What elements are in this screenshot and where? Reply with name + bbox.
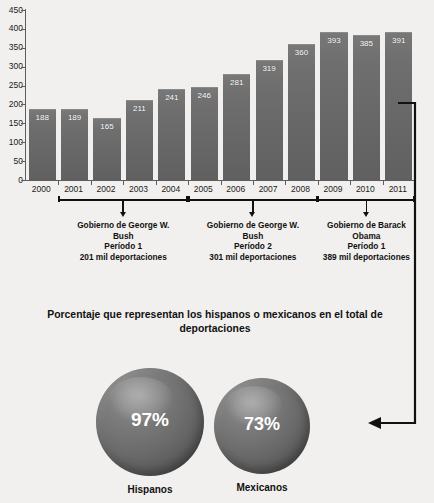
y-tick-label: 150 (0, 119, 23, 128)
x-tick-label: 2002 (90, 184, 122, 195)
y-tick-label: 450 (0, 6, 23, 15)
x-tick-label: 2000 (25, 184, 57, 195)
x-tick-label: 2008 (284, 184, 316, 195)
period-caption: Gobierno de George W.BushPeríodo 1201 mi… (57, 220, 189, 262)
y-tick-mark (21, 48, 25, 49)
bar-value-label: 391 (385, 36, 412, 45)
bar: 189 (61, 109, 88, 180)
y-tick-label: 400 (0, 24, 23, 33)
sphere-group: 97%Hispanos73%Mexicanos (0, 360, 434, 503)
period-arrow-head-icon (120, 212, 126, 217)
period-bracket-tick (318, 196, 320, 202)
bar-value-label: 211 (126, 104, 153, 113)
bar-value-label: 165 (93, 122, 120, 131)
period-caption-line: Obama (300, 231, 432, 242)
bar-value-label: 393 (320, 36, 347, 45)
sphere-percentage-value: 97% (96, 410, 204, 431)
sphere-label: Mexicanos (202, 482, 322, 494)
bar: 165 (93, 118, 120, 180)
y-tick-label: 100 (0, 138, 23, 147)
x-tick-label: 2006 (220, 184, 252, 195)
bar: 360 (288, 44, 315, 180)
bar: 281 (223, 74, 250, 180)
bar: 188 (29, 109, 56, 180)
plot-area: 188189165211241246281319360393385391 (26, 10, 415, 180)
y-tick-mark (21, 123, 25, 124)
period-caption-line: Período 1 (300, 241, 432, 252)
period-caption-line: Período 1 (57, 241, 189, 252)
bar: 241 (158, 89, 185, 180)
period-bracket-tick (58, 196, 60, 202)
y-tick-mark (21, 86, 25, 87)
y-tick-mark (21, 142, 25, 143)
bar-value-label: 241 (158, 93, 185, 102)
period-caption-line: 201 mil deportaciones (57, 252, 189, 263)
y-axis-labels: 450400350300250200150100500 (0, 0, 23, 200)
period-caption: Gobierno de BarackObamaPeríodo 1389 mil … (300, 220, 432, 262)
y-tick-mark (21, 29, 25, 30)
infographic-root: 450400350300250200150100500 188189165211… (0, 0, 434, 503)
period-arrow-head-icon (249, 212, 255, 217)
y-tick-mark (21, 104, 25, 105)
x-tick-label: 2004 (155, 184, 187, 195)
y-tick-label: 50 (0, 157, 23, 166)
period-arrow-head-icon (363, 212, 369, 217)
percentage-sphere: 73% (214, 378, 310, 474)
bar-chart: 450400350300250200150100500 188189165211… (0, 0, 434, 200)
period-caption-line: Bush (187, 231, 319, 242)
bar: 391 (385, 32, 412, 180)
bar: 393 (320, 32, 347, 180)
bar-value-label: 246 (191, 91, 218, 100)
y-tick-mark (21, 67, 25, 68)
bar: 246 (191, 87, 218, 180)
period-caption-line: Período 2 (187, 241, 319, 252)
y-tick-label: 350 (0, 43, 23, 52)
bar-value-label: 319 (256, 64, 283, 73)
period-caption-line: 389 mil deportaciones (300, 252, 432, 263)
period-caption-line: 301 mil deportaciones (187, 252, 319, 263)
period-caption-line: Gobierno de George W. (187, 220, 319, 231)
bar-value-label: 189 (61, 113, 88, 122)
x-tick-label: 2001 (57, 184, 89, 195)
x-tick-label: 2011 (382, 184, 414, 195)
bar: 385 (353, 35, 380, 180)
period-annotations: Gobierno de George W.BushPeríodo 1201 mi… (0, 196, 434, 292)
bar: 211 (126, 100, 153, 180)
period-caption-line: Gobierno de George W. (57, 220, 189, 231)
bar-value-label: 360 (288, 48, 315, 57)
y-tick-label: 200 (0, 100, 23, 109)
x-tick-label: 2005 (187, 184, 219, 195)
percentage-sphere: 97% (96, 368, 204, 476)
y-tick-mark (21, 180, 25, 181)
percentage-section: Porcentaje que representan los hispanos … (0, 300, 434, 503)
sphere-percentage-value: 73% (214, 415, 310, 435)
y-tick-mark (21, 161, 25, 162)
y-tick-mark (21, 10, 25, 11)
period-bracket-tick (188, 196, 190, 202)
bar-value-label: 188 (29, 113, 56, 122)
bar-value-label: 385 (353, 39, 380, 48)
x-tick-label: 2007 (252, 184, 284, 195)
sphere-label: Hispanos (90, 484, 210, 496)
y-tick-label: 250 (0, 81, 23, 90)
period-caption-line: Gobierno de Barack (300, 220, 432, 231)
y-tick-label: 300 (0, 62, 23, 71)
y-tick-label: 0 (0, 176, 23, 185)
x-tick-label: 2010 (349, 184, 381, 195)
period-bracket-tick (413, 196, 415, 202)
x-tick-label: 2009 (317, 184, 349, 195)
period-caption: Gobierno de George W.BushPeríodo 2301 mi… (187, 220, 319, 262)
period-caption-line: Bush (57, 231, 189, 242)
bar: 319 (256, 60, 283, 181)
percentage-section-title: Porcentaje que representan los hispanos … (24, 308, 406, 336)
x-tick-label: 2003 (122, 184, 154, 195)
bar-value-label: 281 (223, 78, 250, 87)
